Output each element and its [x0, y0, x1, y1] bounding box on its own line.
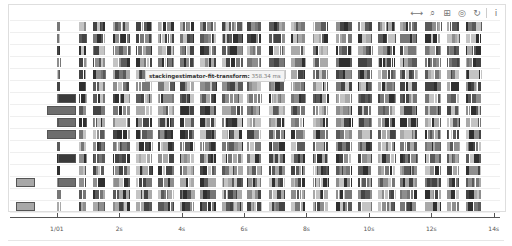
- task-bar[interactable]: [476, 34, 480, 43]
- task-bar[interactable]: [128, 178, 130, 187]
- task-bar[interactable]: [180, 118, 184, 127]
- task-bar[interactable]: [340, 154, 343, 163]
- task-bar[interactable]: [303, 166, 305, 175]
- task-bar[interactable]: [301, 106, 304, 115]
- task-bar[interactable]: [93, 58, 94, 67]
- task-bar[interactable]: [430, 58, 432, 67]
- task-bar[interactable]: [151, 22, 152, 31]
- task-bar[interactable]: [252, 166, 256, 175]
- task-bar[interactable]: [451, 190, 455, 199]
- task-bar[interactable]: [172, 142, 174, 151]
- task-bar[interactable]: [447, 118, 449, 127]
- task-bar[interactable]: [129, 94, 131, 103]
- task-bar[interactable]: [113, 46, 114, 55]
- task-bar[interactable]: [456, 190, 459, 199]
- task-bar[interactable]: [158, 154, 162, 163]
- task-bar[interactable]: [438, 22, 439, 31]
- task-bar[interactable]: [455, 70, 459, 79]
- task-bar[interactable]: [349, 118, 351, 127]
- task-bar[interactable]: [260, 130, 261, 139]
- task-bar[interactable]: [241, 106, 243, 115]
- task-bar-long[interactable]: [16, 178, 35, 187]
- task-bar[interactable]: [313, 22, 314, 31]
- task-bar[interactable]: [165, 34, 166, 43]
- task-bar[interactable]: [434, 118, 439, 127]
- task-bar[interactable]: [97, 130, 99, 139]
- task-bar[interactable]: [214, 94, 215, 103]
- task-bar[interactable]: [280, 82, 284, 91]
- task-bar[interactable]: [260, 178, 261, 187]
- task-bar[interactable]: [231, 106, 236, 115]
- task-bar[interactable]: [281, 94, 284, 103]
- task-bar[interactable]: [242, 142, 243, 151]
- task-bar[interactable]: [472, 46, 473, 55]
- task-bar[interactable]: [302, 178, 305, 187]
- task-bar[interactable]: [57, 82, 60, 91]
- task-bar[interactable]: [165, 58, 166, 67]
- task-bar[interactable]: [395, 94, 396, 103]
- task-bar[interactable]: [480, 106, 481, 115]
- task-bar[interactable]: [448, 166, 452, 175]
- task-bar[interactable]: [193, 202, 194, 211]
- task-bar[interactable]: [59, 34, 60, 43]
- task-bar[interactable]: [466, 118, 470, 127]
- task-bar[interactable]: [166, 106, 167, 115]
- task-bar[interactable]: [104, 190, 105, 199]
- task-bar[interactable]: [146, 106, 149, 115]
- task-bar[interactable]: [413, 94, 417, 103]
- task-bar[interactable]: [351, 94, 352, 103]
- task-bar[interactable]: [458, 106, 459, 115]
- task-bar[interactable]: [449, 202, 451, 211]
- task-bar[interactable]: [479, 178, 481, 187]
- task-bar[interactable]: [451, 130, 453, 139]
- task-bar[interactable]: [294, 70, 297, 79]
- task-bar[interactable]: [127, 58, 130, 67]
- task-bar[interactable]: [322, 94, 326, 103]
- task-bar[interactable]: [435, 94, 436, 103]
- task-bar[interactable]: [187, 154, 190, 163]
- task-bar[interactable]: [214, 58, 216, 67]
- task-bar[interactable]: [191, 22, 194, 31]
- task-bar[interactable]: [437, 82, 441, 91]
- task-bar[interactable]: [119, 166, 124, 175]
- task-bar[interactable]: [327, 22, 328, 31]
- task-bar[interactable]: [440, 142, 441, 151]
- task-bar[interactable]: [261, 202, 262, 211]
- task-bar[interactable]: [162, 58, 163, 67]
- task-bar[interactable]: [148, 190, 152, 199]
- task-bar[interactable]: [336, 190, 337, 199]
- task-bar[interactable]: [159, 94, 160, 103]
- task-bar[interactable]: [241, 178, 242, 187]
- task-bar[interactable]: [127, 22, 130, 31]
- task-bar[interactable]: [229, 34, 232, 43]
- task-bar[interactable]: [256, 34, 258, 43]
- wheel-zoom-icon[interactable]: ⌕: [426, 7, 438, 19]
- task-bar[interactable]: [276, 130, 280, 139]
- task-bar[interactable]: [214, 166, 216, 175]
- task-bar[interactable]: [438, 34, 441, 43]
- task-bar[interactable]: [458, 154, 459, 163]
- save-icon[interactable]: ◎: [456, 7, 468, 19]
- task-bar[interactable]: [102, 154, 105, 163]
- task-bar[interactable]: [136, 82, 137, 91]
- task-bar[interactable]: [208, 34, 211, 43]
- task-bar[interactable]: [316, 106, 318, 115]
- task-bar[interactable]: [193, 34, 195, 43]
- task-bar[interactable]: [303, 118, 304, 127]
- task-bar[interactable]: [259, 34, 262, 43]
- task-bar[interactable]: [393, 166, 395, 175]
- task-bar[interactable]: [113, 106, 118, 115]
- task-bar[interactable]: [183, 142, 184, 151]
- task-bar[interactable]: [328, 166, 329, 175]
- task-bar[interactable]: [163, 22, 166, 31]
- task-bar[interactable]: [193, 58, 194, 67]
- task-bar[interactable]: [479, 142, 481, 151]
- task-bar[interactable]: [104, 142, 105, 151]
- task-bar[interactable]: [86, 118, 87, 127]
- task-bar[interactable]: [346, 166, 350, 175]
- task-bar[interactable]: [141, 154, 146, 163]
- task-bar[interactable]: [237, 190, 242, 199]
- task-bar[interactable]: [295, 202, 300, 211]
- task-bar[interactable]: [238, 166, 242, 175]
- reset-icon[interactable]: ↻: [471, 7, 483, 19]
